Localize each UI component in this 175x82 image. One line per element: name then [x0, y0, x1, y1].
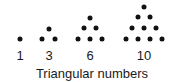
- dot-icon: [82, 26, 87, 31]
- dot-icon: [18, 37, 23, 42]
- dot-icon: [94, 26, 99, 31]
- group-label: 1: [16, 49, 23, 63]
- dot-icon: [130, 26, 135, 31]
- dot-icon: [53, 37, 58, 42]
- dot-icon: [40, 37, 45, 42]
- dot-icon: [136, 15, 141, 20]
- dot-icon: [148, 15, 153, 20]
- dot-icon: [160, 37, 165, 42]
- dot-icon: [154, 26, 159, 31]
- dot-icon: [47, 27, 52, 32]
- group-label: 3: [45, 49, 52, 63]
- group-label: 6: [86, 49, 93, 63]
- group-label: 10: [137, 49, 151, 63]
- dot-icon: [142, 5, 147, 10]
- dot-icon: [100, 37, 105, 42]
- dot-icon: [124, 37, 129, 42]
- dot-icon: [148, 37, 153, 42]
- dot-icon: [88, 16, 93, 21]
- dot-icon: [88, 37, 93, 42]
- dot-icon: [76, 37, 81, 42]
- figure-caption: Triangular numbers: [0, 67, 175, 81]
- dot-icon: [142, 26, 147, 31]
- dot-icon: [136, 37, 141, 42]
